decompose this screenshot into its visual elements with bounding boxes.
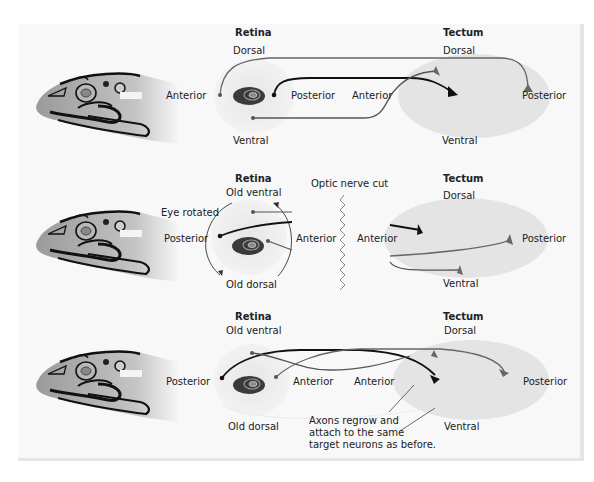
annotation-line-3: target neurons as before.	[309, 439, 436, 450]
retina-ventral-label: Ventral	[233, 135, 269, 146]
retina-bottom-label: Old dorsal	[228, 421, 279, 432]
row-normal: Retina Dorsal Ventral Anterior Posterior…	[36, 27, 567, 146]
tectum-title: Tectum	[443, 173, 484, 184]
tectum-dorsal-label: Dorsal	[443, 190, 475, 201]
tectum-title: Tectum	[443, 311, 484, 322]
retina-right-label: Anterior	[296, 233, 337, 244]
tectum-anterior-label: Anterior	[357, 233, 398, 244]
row-eye-rotated: Retina Old ventral Old dorsal Eye rotate…	[36, 173, 567, 290]
retina-right-label: Anterior	[293, 376, 334, 387]
annotation-line-2: attach to the same	[309, 427, 404, 438]
tectum-title: Tectum	[443, 27, 484, 38]
optic-nerve-cut-label: Optic nerve cut	[311, 178, 388, 189]
eye-lens-icon	[233, 87, 265, 105]
tectum-posterior-label: Posterior	[522, 233, 567, 244]
tadpole-head-illustration	[36, 211, 178, 282]
tectum-ventral-label: Ventral	[444, 421, 480, 432]
tectum-anterior-label: Anterior	[352, 90, 393, 101]
tectum-ventral-label: Ventral	[442, 135, 478, 146]
row-regrowth: Retina Old ventral Old dorsal Posterior …	[36, 311, 568, 450]
tadpole-head-illustration	[36, 73, 178, 144]
retina-top-label: Old ventral	[226, 187, 282, 198]
retina-title: Retina	[235, 311, 272, 322]
eye-rotated-label: Eye rotated	[161, 207, 219, 218]
retina-title: Retina	[235, 27, 272, 38]
eye-lens-icon	[232, 237, 264, 255]
retina-left-label: Posterior	[166, 376, 211, 387]
retina-bottom-label: Old dorsal	[226, 279, 277, 290]
retina-posterior-label: Posterior	[291, 90, 336, 101]
tectum-posterior-label: Posterior	[523, 376, 568, 387]
tectum-anterior-label: Anterior	[354, 376, 395, 387]
tectum-ventral-label: Ventral	[443, 278, 479, 289]
annotation-pointer-2	[400, 408, 435, 431]
annotation-line-1: Axons regrow and	[309, 415, 399, 426]
retina-top-label: Old ventral	[226, 325, 282, 336]
retina-left-label: Posterior	[164, 233, 209, 244]
tectum-dorsal-label: Dorsal	[443, 45, 475, 56]
retina-title: Retina	[235, 173, 272, 184]
optic-nerve-cut-zigzag	[340, 195, 345, 290]
tectum-dorsal-label: Dorsal	[444, 325, 476, 336]
tadpole-head-illustration	[36, 351, 178, 422]
eye-lens-icon	[233, 376, 265, 394]
retina-disc	[211, 199, 287, 275]
retinotectal-diagram: Retina Dorsal Ventral Anterior Posterior…	[0, 0, 594, 482]
retina-anterior-label: Anterior	[166, 90, 207, 101]
tectum-posterior-label: Posterior	[522, 90, 567, 101]
retina-dorsal-label: Dorsal	[233, 45, 265, 56]
